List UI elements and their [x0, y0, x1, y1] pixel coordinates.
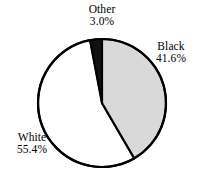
pie-label-black-name: Black	[142, 40, 200, 52]
pie-label-other-name: Other	[68, 3, 136, 15]
pie-label-white: White 55.4%	[2, 131, 62, 156]
pie-label-black: Black 41.6%	[142, 40, 200, 65]
pie-chart: Other 3.0% Black 41.6% White 55.4%	[0, 0, 201, 187]
pie-label-white-value: 55.4%	[2, 143, 62, 155]
pie-label-other: Other 3.0%	[68, 3, 136, 28]
pie-chart-graphic	[0, 0, 201, 187]
pie-label-white-name: White	[2, 131, 62, 143]
pie-label-black-value: 41.6%	[142, 52, 200, 64]
pie-label-other-value: 3.0%	[68, 15, 136, 27]
